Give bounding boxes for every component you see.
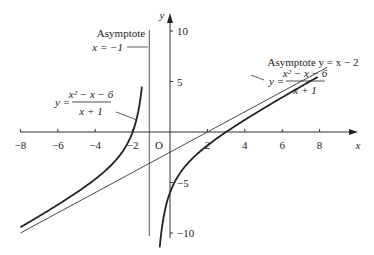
- x-tick-label: 4: [242, 139, 248, 151]
- y-tick-label: −5: [177, 177, 189, 189]
- function-right-branch: [160, 77, 318, 248]
- svg-text:x + 1: x + 1: [78, 105, 102, 117]
- chart-plot: −8−6−4−22468105−5−10xyO Asymptotex = −1A…: [0, 0, 374, 255]
- annotations: Asymptotex = −1Asymptote y = x − 2y =x² …: [54, 27, 358, 120]
- svg-text:y =: y =: [54, 96, 70, 108]
- vertical-asymptote-equation: x = −1: [91, 41, 123, 53]
- y-tick-label: 5: [177, 76, 183, 88]
- x-axis-arrow-icon: [349, 129, 358, 135]
- right-branch-label: y =x² − x − 6x + 1: [251, 67, 328, 96]
- vertical-asymptote-title: Asymptote: [97, 27, 145, 39]
- origin-label: O: [155, 139, 163, 151]
- axes: [20, 13, 358, 238]
- x-axis-label: x: [355, 139, 361, 151]
- y-axis-arrow-icon: [167, 13, 173, 23]
- svg-text:x + 1: x + 1: [292, 84, 316, 96]
- x-tick-label: −8: [15, 139, 27, 151]
- x-tick-label: 8: [317, 139, 323, 151]
- y-tick-label: 10: [177, 25, 189, 37]
- y-tick-label: −10: [177, 227, 195, 239]
- svg-text:x² − x − 6: x² − x − 6: [282, 67, 328, 79]
- y-axis-label: y: [159, 9, 165, 21]
- x-tick-label: 6: [279, 139, 285, 151]
- x-tick-label: −4: [89, 139, 101, 151]
- ticks: −8−6−4−22468105−5−10xyO: [15, 9, 361, 239]
- svg-text:y =: y =: [268, 75, 284, 87]
- svg-text:x² − x − 6: x² − x − 6: [68, 88, 114, 100]
- left-branch-label: y =x² − x − 6x + 1: [54, 88, 137, 120]
- x-tick-label: −6: [52, 139, 64, 151]
